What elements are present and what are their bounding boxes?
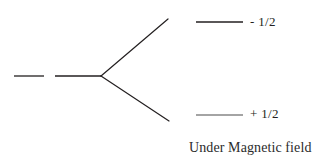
lower-branch-line [101,76,169,121]
lower-level-label: + 1/2 [250,107,279,120]
upper-branch-line [101,19,168,76]
zeeman-splitting-figure: - 1/2 + 1/2 Under Magnetic field [0,0,315,167]
figure-caption: Under Magnetic field [189,141,312,155]
upper-level-label: - 1/2 [250,15,276,28]
